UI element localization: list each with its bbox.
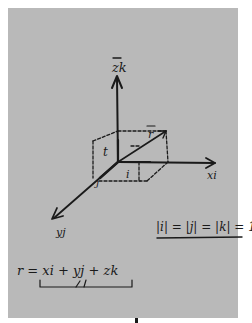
bracket-tick	[76, 281, 80, 287]
r-vector-label: r	[148, 128, 154, 141]
z-component-label: t	[103, 145, 108, 159]
z-axis-label: zk	[111, 60, 127, 75]
j-unit-arrow	[100, 162, 118, 178]
hand-drawn-diagram: zk xi yj r t i j |i| = |j| = |k| = 1 r =…	[0, 0, 252, 323]
position-vector-equation: r = xi + yj + zk	[17, 263, 118, 278]
y-axis-label: yj	[55, 226, 66, 239]
r-vector	[118, 131, 166, 162]
x-axis-label: xi	[207, 169, 217, 182]
unit-norm-underline	[157, 237, 242, 238]
unit-norm-equation: |i| = |j| = |k| = 1	[156, 220, 252, 234]
x-component-label: i	[126, 168, 130, 181]
bracket-tick	[84, 280, 86, 287]
y-axis-arrowhead	[52, 208, 63, 219]
scan-mark	[135, 318, 138, 323]
